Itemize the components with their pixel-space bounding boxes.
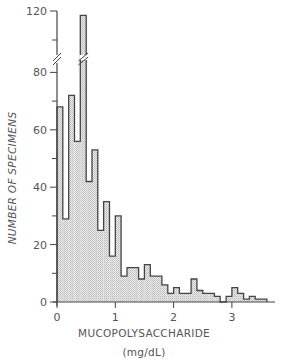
histogram-bar: [174, 288, 180, 302]
histogram-bar: [179, 293, 185, 302]
histogram-bar: [127, 268, 133, 302]
histogram-bar: [139, 279, 145, 302]
x-tick-label: 0: [54, 311, 61, 324]
histogram-bar: [98, 230, 104, 302]
y-tick-label: 60: [33, 124, 47, 137]
histogram-bar: [144, 265, 150, 302]
histogram-bar: [249, 296, 255, 302]
histogram-bar: [168, 293, 174, 302]
histogram-chart: 020406080120 0123 MUCOPOLYSACCHARIDE (mg…: [0, 0, 287, 364]
x-tick-label: 2: [170, 311, 177, 324]
histogram-bar: [214, 296, 220, 302]
histogram-bar: [150, 276, 156, 302]
y-tick-label: 20: [33, 239, 47, 252]
histogram-bar: [162, 285, 168, 302]
histogram-bar: [232, 288, 238, 302]
x-axis-units: (mg/dL): [122, 346, 165, 358]
histogram-bar: [226, 296, 232, 302]
histogram-bar: [57, 107, 63, 302]
histogram-bar: [121, 276, 127, 302]
histogram-bars: [57, 15, 267, 302]
histogram-bar: [104, 202, 110, 302]
histogram-bar: [191, 279, 197, 302]
y-tick-label: 0: [40, 296, 47, 309]
histogram-bar: [109, 256, 115, 302]
histogram-bar: [209, 293, 215, 302]
histogram-bar: [69, 95, 75, 302]
x-axis-title: MUCOPOLYSACCHARIDE: [78, 327, 210, 339]
x-tick-label: 1: [112, 311, 119, 324]
x-tick-label: 3: [228, 311, 235, 324]
y-tick-label: 40: [33, 181, 47, 194]
histogram-bar: [238, 293, 244, 302]
histogram-bar: [197, 291, 203, 302]
histogram-bar: [92, 150, 98, 302]
histogram-bar: [86, 181, 92, 302]
histogram-bar: [133, 268, 139, 302]
y-axis-title: NUMBER OF SPECIMENS: [6, 112, 18, 245]
histogram-bar: [185, 293, 191, 302]
y-axis: 020406080120: [26, 5, 61, 309]
histogram-bar: [63, 219, 69, 302]
histogram-bar: [74, 141, 80, 302]
x-axis: 0123: [53, 302, 275, 324]
y-tick-label: 80: [33, 66, 47, 79]
histogram-bar: [203, 293, 209, 302]
histogram-bar: [115, 216, 121, 302]
histogram-bar: [156, 276, 162, 302]
y-tick-label: 120: [26, 5, 47, 18]
